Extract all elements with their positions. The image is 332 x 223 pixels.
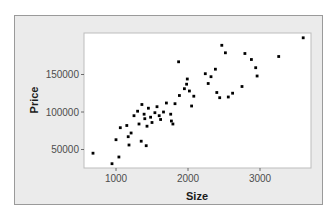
data-point: [188, 90, 191, 93]
data-point: [151, 121, 154, 124]
x-axis-ticks: 100020003000: [105, 168, 272, 184]
data-point: [204, 72, 207, 75]
data-point: [214, 68, 217, 71]
data-point: [250, 58, 253, 61]
data-point: [141, 103, 144, 106]
data-point: [302, 36, 305, 39]
data-point: [133, 114, 136, 117]
data-point: [156, 105, 159, 108]
x-tick-label: 2000: [177, 173, 200, 184]
data-point: [158, 114, 161, 117]
data-point: [256, 75, 259, 78]
data-point: [244, 52, 247, 55]
y-axis-ticks: 50000100000150000: [46, 69, 84, 155]
data-point: [218, 96, 221, 99]
data-point: [147, 107, 150, 110]
data-point: [177, 60, 180, 63]
data-point: [130, 132, 133, 135]
data-point: [224, 51, 227, 54]
data-point: [227, 96, 230, 99]
data-point: [174, 102, 177, 105]
data-point: [136, 110, 139, 113]
data-point: [119, 126, 122, 129]
x-tick-label: 1000: [105, 173, 128, 184]
data-point: [162, 111, 165, 114]
data-point: [115, 138, 118, 141]
data-point: [215, 91, 218, 94]
data-point: [277, 55, 280, 58]
y-tick-label: 50000: [51, 144, 79, 155]
data-point: [178, 94, 181, 97]
data-point: [186, 78, 189, 81]
y-axis-title: Price: [28, 87, 40, 114]
data-point: [254, 66, 257, 69]
data-point: [210, 75, 213, 78]
data-point: [220, 44, 223, 47]
data-point: [140, 140, 143, 143]
data-point: [165, 102, 168, 105]
data-point: [185, 83, 188, 86]
data-point: [125, 124, 128, 127]
data-point: [146, 125, 149, 128]
data-point: [149, 116, 152, 119]
data-point: [143, 117, 146, 120]
data-point: [172, 123, 175, 126]
data-point: [183, 87, 186, 90]
data-point: [128, 144, 131, 147]
x-tick-label: 3000: [249, 173, 272, 184]
data-point: [127, 135, 130, 138]
data-point: [231, 92, 234, 95]
data-point: [138, 123, 141, 126]
scatter-chart: 100020003000 50000100000150000 Size Pric…: [0, 0, 332, 223]
data-point: [207, 82, 210, 85]
data-point: [92, 152, 95, 155]
data-point: [190, 105, 193, 108]
x-axis-title: Size: [186, 190, 208, 202]
data-point: [159, 118, 162, 121]
data-point: [169, 113, 172, 116]
data-point: [154, 111, 157, 114]
data-point: [111, 162, 114, 165]
data-point: [118, 156, 121, 159]
data-point: [192, 95, 195, 98]
data-point: [170, 120, 173, 123]
y-tick-label: 150000: [46, 69, 80, 80]
y-tick-label: 100000: [46, 107, 80, 118]
data-point: [143, 113, 146, 116]
plot-panel: [84, 33, 311, 168]
data-point: [241, 85, 244, 88]
data-point: [145, 144, 148, 147]
